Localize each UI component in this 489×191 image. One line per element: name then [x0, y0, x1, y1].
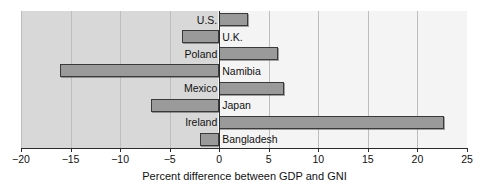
tick-label-0: 0	[199, 153, 239, 165]
bar-label-japan: Japan	[222, 99, 251, 111]
bar-label-namibia: Namibia	[222, 65, 261, 77]
tick-10	[318, 148, 319, 152]
tick-label--20: −20	[1, 153, 41, 165]
bar-us	[219, 13, 248, 26]
tick-label-5: 5	[249, 153, 289, 165]
chart-figure: U.S.U.K.PolandNamibiaMexicoJapanIrelandB…	[0, 0, 489, 191]
bar-ireland	[219, 116, 444, 129]
bar-namibia	[60, 64, 220, 77]
x-axis-title: Percent difference between GDP and GNI	[0, 170, 489, 182]
bar-label-ireland: Ireland	[185, 116, 217, 128]
gridline--5	[170, 11, 171, 148]
bar-poland	[219, 47, 277, 60]
bar-label-uk: U.K.	[222, 31, 242, 43]
plot-area	[21, 11, 467, 148]
gridline--15	[71, 11, 72, 148]
tick-label--15: −15	[51, 153, 91, 165]
tick-label-15: 15	[348, 153, 388, 165]
tick--10	[120, 148, 121, 152]
tick-label--5: −5	[150, 153, 190, 165]
bar-label-bangladesh: Bangladesh	[222, 133, 277, 145]
tick-label-10: 10	[298, 153, 338, 165]
bar-japan	[151, 99, 219, 112]
tick-label--10: −10	[100, 153, 140, 165]
zero-axis-line	[219, 11, 220, 148]
bar-bangladesh	[200, 133, 219, 146]
tick--15	[71, 148, 72, 152]
bar-label-us: U.S.	[197, 14, 217, 26]
tick-label-25: 25	[447, 153, 487, 165]
gridline--20	[21, 11, 22, 148]
bar-uk	[182, 30, 220, 43]
bar-label-poland: Poland	[185, 48, 218, 60]
bar-mexico	[219, 82, 283, 95]
tick--20	[21, 148, 22, 152]
tick--5	[170, 148, 171, 152]
tick-label-20: 20	[397, 153, 437, 165]
tick-15	[368, 148, 369, 152]
bar-label-mexico: Mexico	[184, 82, 217, 94]
tick-20	[417, 148, 418, 152]
x-axis-line	[21, 148, 467, 149]
gridline--10	[120, 11, 121, 148]
tick-25	[467, 148, 468, 152]
tick-0	[219, 148, 220, 152]
tick-5	[269, 148, 270, 152]
